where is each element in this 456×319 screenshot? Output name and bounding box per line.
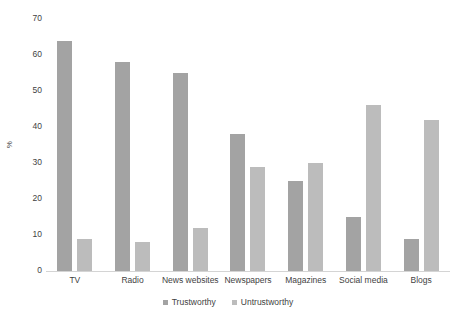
y-axis-tick-40: 40: [18, 122, 42, 131]
bar-untrustworthy-blogs: [424, 120, 439, 271]
bar-untrustworthy-magazines: [308, 163, 323, 271]
bar-untrustworthy-tv: [77, 239, 92, 271]
bar-group: [104, 19, 162, 271]
legend-label: Trustworthy: [172, 297, 216, 307]
bar-group: [335, 19, 393, 271]
bar-trustworthy-magazines: [288, 181, 303, 271]
y-axis-tick-0: 0: [18, 266, 42, 275]
y-axis-tick-10: 10: [18, 230, 42, 239]
chart-legend: TrustworthyUntrustworthy: [0, 297, 456, 307]
bar-trustworthy-social-media: [346, 217, 361, 271]
y-axis-tick-30: 30: [18, 158, 42, 167]
bar-trustworthy-blogs: [404, 239, 419, 271]
bar-trustworthy-newspapers: [230, 134, 245, 271]
bar-trustworthy-tv: [57, 41, 72, 271]
bar-trustworthy-news-websites: [173, 73, 188, 271]
bar-trustworthy-radio: [115, 62, 130, 271]
bar-group: [277, 19, 335, 271]
bar-group: [392, 19, 450, 271]
x-axis-baseline: [46, 271, 450, 272]
bar-group: [46, 19, 104, 271]
bar-untrustworthy-social-media: [366, 105, 381, 271]
y-axis-label: %: [5, 141, 14, 148]
legend-swatch-icon: [163, 300, 168, 305]
bar-group: [161, 19, 219, 271]
legend-label: Untrustworthy: [241, 297, 293, 307]
y-axis-tick-20: 20: [18, 194, 42, 203]
plot-area: [46, 19, 450, 271]
bar-untrustworthy-radio: [135, 242, 150, 271]
y-axis-tick-70: 70: [18, 14, 42, 23]
legend-item-untrustworthy[interactable]: Untrustworthy: [232, 297, 293, 307]
legend-item-trustworthy[interactable]: Trustworthy: [163, 297, 216, 307]
y-axis-tick-60: 60: [18, 50, 42, 59]
bar-untrustworthy-newspapers: [250, 167, 265, 271]
bar-chart: % 706050403020100 TVRadioNews websitesNe…: [0, 0, 456, 319]
bar-group: [219, 19, 277, 271]
bar-untrustworthy-news-websites: [193, 228, 208, 271]
x-axis-label-blogs: Blogs: [371, 276, 456, 285]
y-axis-tick-50: 50: [18, 86, 42, 95]
legend-swatch-icon: [232, 300, 237, 305]
